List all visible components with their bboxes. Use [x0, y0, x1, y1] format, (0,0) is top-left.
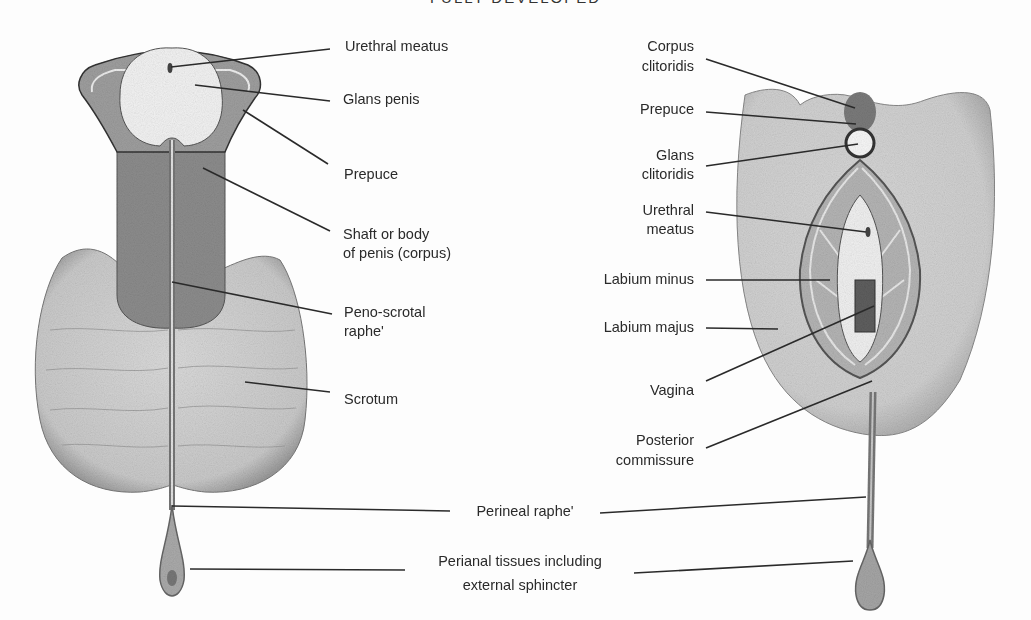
label-prepuce-male: Prepuce	[344, 165, 398, 184]
label-shaft-line1: Shaft or body	[343, 225, 429, 244]
label-prepuce-female: Prepuce	[640, 100, 694, 119]
perianal-female	[856, 540, 885, 610]
urethral-meatus-female	[866, 227, 871, 237]
label-urethral-meatus-female-line2: meatus	[646, 220, 694, 239]
label-vagina: Vagina	[650, 381, 694, 400]
label-glans-clitoridis-line1: Glans	[656, 146, 694, 165]
vagina-shape	[855, 280, 875, 332]
male-drawing	[35, 48, 307, 596]
label-posterior-commissure-line2: commissure	[616, 451, 694, 470]
label-peno-scrotal-line2: raphe'	[344, 322, 384, 341]
label-perianal-line1: Perianal tissues including	[405, 552, 635, 571]
urethral-meatus-male	[168, 63, 173, 73]
label-perineal-raphe: Perineal raphe'	[455, 502, 595, 521]
label-urethral-meatus-female-line1: Urethral	[642, 201, 694, 220]
anatomy-illustration	[0, 0, 1031, 620]
label-shaft-line2: of penis (corpus)	[343, 244, 451, 263]
label-labium-minus: Labium minus	[604, 270, 694, 289]
label-glans-penis: Glans penis	[343, 90, 420, 109]
label-scrotum: Scrotum	[344, 390, 398, 409]
label-urethral-meatus-male: Urethral meatus	[345, 37, 448, 56]
label-corpus-clitoridis-line2: clitoridis	[642, 57, 694, 76]
label-labium-majus: Labium majus	[604, 318, 694, 337]
label-corpus-clitoridis-line1: Corpus	[647, 37, 694, 56]
label-posterior-commissure-line1: Posterior	[636, 431, 694, 450]
label-perianal-line2: external sphincter	[405, 576, 635, 595]
label-glans-clitoridis-line2: clitoridis	[642, 165, 694, 184]
corpus-clitoridis-shape	[844, 92, 876, 132]
label-peno-scrotal-line1: Peno-scrotal	[344, 303, 425, 322]
glans-clitoridis-shape	[846, 129, 874, 157]
